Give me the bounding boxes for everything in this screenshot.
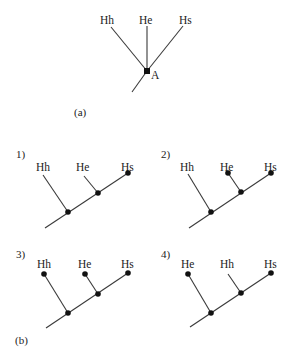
branch [228,173,241,192]
taxon-label: Hh [36,161,50,173]
taxon-label: He [76,161,89,173]
tree-number: 2) [161,148,171,161]
branch [188,274,211,313]
caption-b: (b) [15,334,28,347]
tree-4: 4) He Hh Hs [161,248,277,327]
backbone-branch [189,173,271,228]
branch [111,27,147,71]
node-a-marker [144,68,150,74]
tree-1: 1) Hh He Hs [16,148,134,228]
taxon-label: Hh [100,14,114,26]
node-dot [238,290,244,296]
branch [147,26,183,71]
taxon-label: Hh [180,161,194,173]
tip-dot [41,271,47,277]
phylogeny-figure: Hh He Hs A (a) 1) Hh He Hs 2) Hh He Hs [0,0,289,357]
taxon-label: He [139,14,152,26]
tip-dot [268,170,274,176]
node-dot [208,310,214,316]
taxon-label: Hs [121,258,134,270]
backbone-branch [46,273,128,328]
tree-3: 3) Hh He Hs [16,248,134,328]
tree-a: Hh He Hs A (a) [74,14,192,119]
tip-dot [82,271,88,277]
taxon-label: Hs [264,258,277,270]
node-dot [95,291,101,297]
tip-dot [185,271,191,277]
tree-number: 1) [16,148,26,161]
branch [85,274,98,294]
node-dot [65,209,71,215]
node-dot [208,209,214,215]
branch [228,274,241,293]
tip-dot [268,270,274,276]
tree-number: 3) [16,248,26,261]
node-dot [95,190,101,196]
tip-dot [225,170,231,176]
node-label: A [151,69,160,81]
branch [84,176,98,193]
node-dot [65,310,71,316]
backbone-branch [190,273,271,327]
taxon-label: Hs [179,14,192,26]
caption-a: (a) [74,106,87,119]
node-dot [238,189,244,195]
tree-2: 2) Hh He Hs [161,148,277,228]
taxon-label: He [181,258,194,270]
branch [188,174,211,212]
root-branch [132,71,147,92]
tip-dot [125,270,131,276]
branch [43,175,68,212]
branch [44,274,68,313]
taxon-label: Hh [220,258,234,270]
tip-dot [125,170,131,176]
backbone-branch [45,173,128,228]
taxon-label: Hh [37,258,51,270]
taxon-label: He [78,258,91,270]
tree-number: 4) [161,248,171,261]
